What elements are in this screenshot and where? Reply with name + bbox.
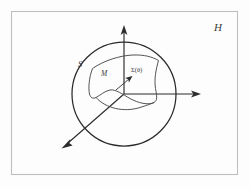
point-label: Σ(θ): [131, 66, 142, 74]
ambient-space-label: H: [213, 21, 223, 33]
manifold-label: M: [100, 69, 108, 78]
math-diagram-canvas: H S M Σ(θ): [0, 0, 250, 188]
figure-container: H S M Σ(θ): [0, 0, 250, 188]
